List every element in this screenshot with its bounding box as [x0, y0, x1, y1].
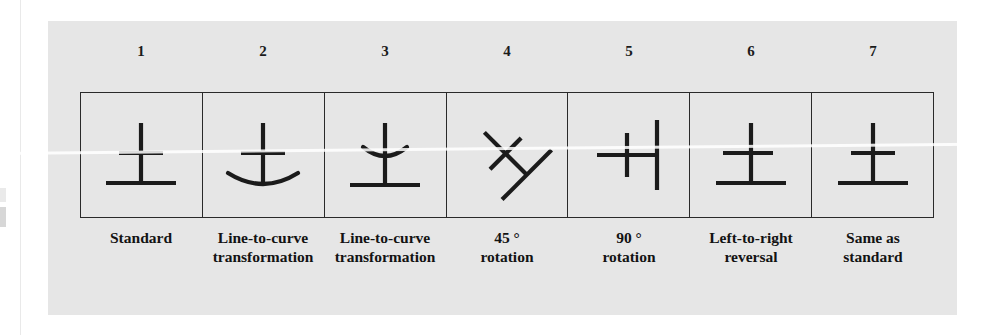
- caption-cell: Standard: [80, 228, 202, 267]
- column-number: 7: [812, 44, 934, 59]
- glyph-cell-1: [81, 93, 203, 217]
- glyph-cell-3: [325, 93, 447, 217]
- rotated-45-glyph-icon: [452, 105, 562, 205]
- column-number: 2: [202, 44, 324, 59]
- caption-cell: 45 ° rotation: [446, 228, 568, 267]
- caption-cell: Same as standard: [812, 228, 934, 267]
- glyph-cell-5: [568, 93, 690, 217]
- caption-cell: Line-to-curve transformation: [202, 228, 324, 267]
- column-number-row: 1 2 3 4 5 6 7: [80, 44, 934, 59]
- standard-glyph-icon: [818, 105, 928, 205]
- page-edge-artifact: [0, 207, 6, 227]
- caption-row: Standard Line-to-curve transformation Li…: [80, 228, 934, 267]
- column-number: 6: [690, 44, 812, 59]
- glyph-cell-4: [447, 93, 569, 217]
- column-number: 1: [80, 44, 202, 59]
- curved-base-glyph-icon: [208, 105, 318, 205]
- mirrored-glyph-icon: [696, 105, 806, 205]
- glyph-cell-7: [812, 93, 933, 217]
- column-number: 4: [446, 44, 568, 59]
- rotated-90-glyph-icon: [574, 105, 684, 205]
- page-gutter-rule: [20, 0, 21, 335]
- caption-cell: 90 ° rotation: [568, 228, 690, 267]
- glyph-cell-6: [690, 93, 812, 217]
- standard-glyph-icon: [86, 105, 196, 205]
- curved-crossbar-glyph-icon: [330, 105, 440, 205]
- glyph-table: [80, 92, 934, 218]
- caption-cell: Left-to-right reversal: [690, 228, 812, 267]
- column-number: 3: [324, 44, 446, 59]
- column-number: 5: [568, 44, 690, 59]
- page-edge-artifact: [0, 188, 6, 202]
- glyph-cell-2: [203, 93, 325, 217]
- caption-cell: Line-to-curve transformation: [324, 228, 446, 267]
